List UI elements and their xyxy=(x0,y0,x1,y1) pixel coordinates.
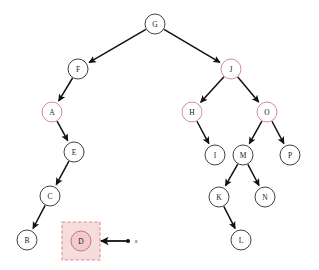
tree-node-d[interactable]: D xyxy=(71,231,91,251)
tree-edge-m-k xyxy=(225,164,237,186)
tree-node-a[interactable]: A xyxy=(42,102,62,122)
tree-node-b[interactable]: B xyxy=(17,230,37,250)
tree-edge-j-o xyxy=(238,77,259,102)
tree-diagram-svg: GFJAHOEIMPCKNBDL x xyxy=(0,0,319,270)
tree-node-o[interactable]: O xyxy=(257,102,277,122)
tree-edge-k-l xyxy=(224,206,235,228)
tree-edges-group xyxy=(33,29,284,228)
tree-node-g[interactable]: G xyxy=(145,14,165,34)
tree-node-j[interactable]: J xyxy=(221,59,241,79)
tree-edge-h-i xyxy=(197,121,209,143)
node-circle-g xyxy=(145,14,165,34)
tree-edge-a-e xyxy=(57,121,68,140)
tree-node-n[interactable]: N xyxy=(255,187,275,207)
tree-edge-j-h xyxy=(201,77,224,103)
tree-node-k[interactable]: K xyxy=(209,187,229,207)
node-circle-h xyxy=(182,102,202,122)
node-circle-c xyxy=(40,186,60,206)
node-circle-j xyxy=(221,59,241,79)
node-circle-a xyxy=(42,102,62,122)
tree-edge-o-m xyxy=(249,121,262,143)
tree-node-m[interactable]: M xyxy=(233,145,253,165)
tree-node-p[interactable]: P xyxy=(280,145,300,165)
tree-edge-g-j xyxy=(164,29,220,62)
node-circle-i xyxy=(205,145,225,165)
tree-node-l[interactable]: L xyxy=(231,230,251,250)
tree-edge-e-c xyxy=(56,161,69,184)
node-circle-n xyxy=(255,187,275,207)
tree-edge-o-p xyxy=(272,121,284,143)
node-circle-l xyxy=(231,230,251,250)
tree-nodes-group: GFJAHOEIMPCKNBDL xyxy=(17,14,300,251)
node-circle-f xyxy=(68,59,88,79)
tree-node-i[interactable]: I xyxy=(205,145,225,165)
pointer-annotation-group: x xyxy=(101,238,138,244)
node-circle-k xyxy=(209,187,229,207)
tree-edge-g-f xyxy=(89,29,146,62)
tree-node-f[interactable]: F xyxy=(68,59,88,79)
tree-edge-f-a xyxy=(59,78,73,101)
tree-node-c[interactable]: C xyxy=(40,186,60,206)
tree-edge-m-n xyxy=(248,164,259,185)
pointer-origin-dot xyxy=(126,239,130,243)
node-circle-d xyxy=(71,231,91,251)
node-circle-e xyxy=(64,142,84,162)
node-circle-b xyxy=(17,230,37,250)
tree-edge-c-b xyxy=(33,205,45,228)
node-circle-m xyxy=(233,145,253,165)
tree-node-e[interactable]: E xyxy=(64,142,84,162)
node-circle-o xyxy=(257,102,277,122)
tree-node-h[interactable]: H xyxy=(182,102,202,122)
tree-diagram-canvas: GFJAHOEIMPCKNBDL x xyxy=(0,0,319,270)
pointer-label-x: x xyxy=(134,238,138,244)
node-circle-p xyxy=(280,145,300,165)
